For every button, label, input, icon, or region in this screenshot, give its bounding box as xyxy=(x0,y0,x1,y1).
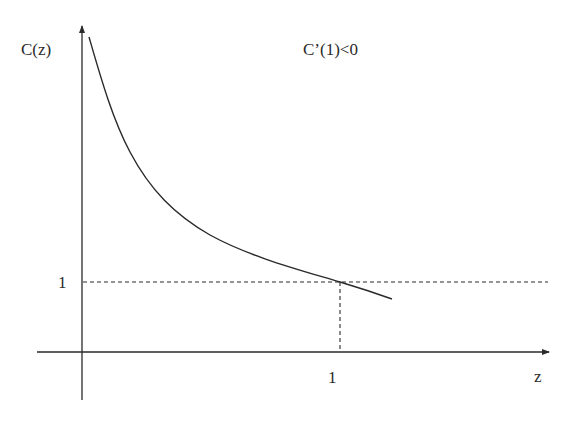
x-tick-label: 1 xyxy=(328,369,337,386)
y-axis-label: C(z) xyxy=(21,41,51,58)
y-tick-label: 1 xyxy=(58,274,67,291)
x-axis-label: z xyxy=(534,368,542,385)
curve-c-of-z xyxy=(89,37,392,299)
derivative-annotation: C’(1)<0 xyxy=(303,41,358,58)
diagram-canvas xyxy=(0,0,578,422)
